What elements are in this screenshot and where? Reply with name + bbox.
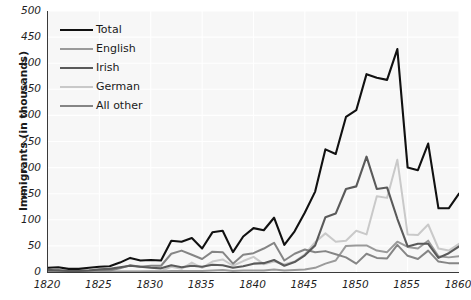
y-axis-title: Immigrants (in thousands) — [17, 46, 29, 216]
y-axis-tick-label: 500 — [0, 4, 41, 16]
x-axis-tick-label: 1855 — [393, 278, 420, 290]
legend: TotalEnglishIrishGermanAll other — [60, 21, 142, 114]
x-axis-tick-label: 1850 — [342, 278, 369, 290]
legend-item-irish[interactable]: Irish — [60, 59, 142, 76]
x-axis-tick-label: 1825 — [85, 278, 112, 290]
y-axis-tick-label: 0 — [0, 265, 41, 277]
legend-item-german[interactable]: German — [60, 78, 142, 95]
legend-label: All other — [96, 100, 142, 111]
legend-item-all-other[interactable]: All other — [60, 97, 142, 114]
legend-swatch-line-icon — [60, 48, 93, 50]
legend-label: Total — [96, 24, 122, 35]
y-axis-tick-label: 50 — [0, 239, 41, 251]
legend-swatch-line-icon — [60, 86, 93, 88]
legend-label: English — [96, 43, 136, 54]
legend-item-english[interactable]: English — [60, 40, 142, 57]
y-axis-tick-label: 450 — [0, 30, 41, 42]
x-axis-tick-label: 1835 — [188, 278, 215, 290]
legend-label: German — [96, 81, 140, 92]
x-axis-tick-label: 1820 — [34, 278, 61, 290]
x-axis-tick-label: 1845 — [291, 278, 318, 290]
legend-label: Irish — [96, 62, 120, 73]
legend-swatch-line-icon — [60, 29, 93, 31]
x-axis-tick-label: 1830 — [136, 278, 163, 290]
x-axis-tick-label: 1840 — [239, 278, 266, 290]
x-axis-tick-label: 1860 — [445, 278, 471, 290]
legend-swatch-line-icon — [60, 67, 93, 69]
legend-item-total[interactable]: Total — [60, 21, 142, 38]
legend-swatch-line-icon — [60, 105, 93, 107]
